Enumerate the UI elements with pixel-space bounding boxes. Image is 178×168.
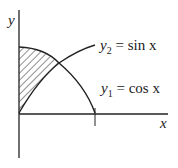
sin-label-sub: 2 (107, 45, 112, 56)
sin-label-var: y (100, 37, 107, 53)
cos-label-eq: = cos x (116, 80, 159, 96)
cos-label-var: y (101, 80, 108, 96)
y-axis-label: y (8, 13, 15, 28)
cos-label-sub: 1 (108, 88, 113, 99)
cos-label: y1 = cos x (101, 81, 160, 99)
x-axis-label: x (160, 116, 167, 131)
sin-label-eq: = sin x (115, 37, 156, 53)
sin-label: y2 = sin x (100, 38, 156, 56)
